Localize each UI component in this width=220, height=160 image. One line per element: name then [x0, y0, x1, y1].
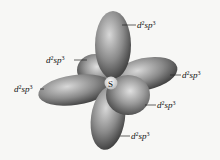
label-bottom: d2sp3: [131, 131, 150, 141]
label-upper-left: d2sp3: [46, 55, 65, 65]
label-top: d2sp3: [137, 20, 156, 30]
central-atom-label: S: [108, 79, 113, 89]
orbital-diagram: S d2sp3 d2sp3 d2sp3 d2sp3 d2sp3 d2sp3: [0, 0, 220, 160]
label-right: d2sp3: [182, 70, 201, 80]
orbital-lobe-top: [95, 11, 131, 79]
label-lower-right: d2sp3: [157, 100, 176, 110]
label-left: d2sp3: [14, 84, 33, 94]
